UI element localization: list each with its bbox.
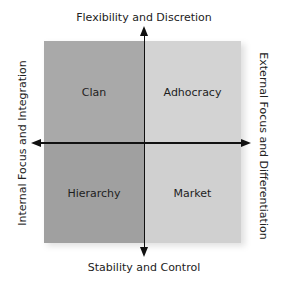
axis-label-right: External Focus and Differentiation — [257, 46, 270, 246]
quadrant-hierarchy: Hierarchy — [44, 143, 144, 243]
axis-label-left: Internal Focus and Integration — [16, 43, 29, 243]
axis-label-bottom: Stability and Control — [0, 261, 282, 274]
arrow-left-icon — [31, 139, 41, 147]
vertical-axis — [144, 31, 146, 253]
axis-label-top: Flexibility and Discretion — [0, 11, 282, 24]
quadrant-adhocracy-label: Adhocracy — [164, 86, 222, 99]
quadrant-clan: Clan — [44, 41, 144, 143]
arrow-up-icon — [140, 26, 148, 36]
quadrant-market: Market — [144, 143, 241, 243]
quadrant-clan-label: Clan — [82, 86, 106, 99]
arrow-right-icon — [241, 139, 251, 147]
quadrant-hierarchy-label: Hierarchy — [67, 187, 120, 200]
arrow-down-icon — [140, 247, 148, 257]
horizontal-axis — [36, 142, 246, 144]
quadrant-adhocracy: Adhocracy — [144, 41, 241, 143]
quadrant-market-label: Market — [174, 187, 212, 200]
